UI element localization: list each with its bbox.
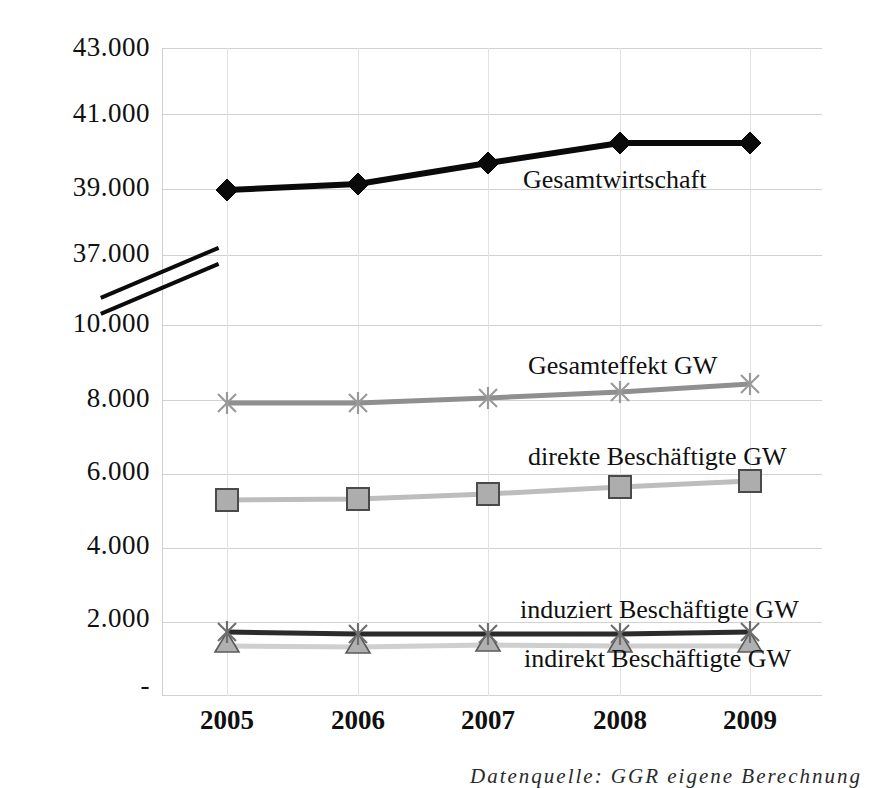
marker-square <box>609 476 631 498</box>
marker-diamond <box>739 132 761 154</box>
marker-square <box>216 489 238 511</box>
x-tick-label-2008: 2008 <box>560 706 680 734</box>
marker-square <box>347 488 369 510</box>
series-label-direkte: direkte Beschäftigte GW <box>528 443 786 471</box>
x-tick-label-2005: 2005 <box>167 706 287 734</box>
series-label-gesamteffekt: Gesamteffekt GW <box>528 352 717 380</box>
series-direkte-beschaeftigte-gw <box>216 470 761 511</box>
series-induziert-beschaeftigte-gw <box>218 621 759 645</box>
series-label-indirekt: indirekt Beschäftigte GW <box>524 645 791 673</box>
marker-square <box>739 470 761 492</box>
marker-square <box>477 483 499 505</box>
marker-diamond <box>216 179 238 201</box>
marker-diamond <box>477 152 499 174</box>
series-label-gesamtwirtschaft: Gesamtwirtschaft <box>523 166 706 194</box>
x-tick-label-2006: 2006 <box>298 706 418 734</box>
source-note: Datenquelle: GGR eigene Berechnung <box>470 764 862 788</box>
x-tick-label-2009: 2009 <box>690 706 810 734</box>
marker-diamond <box>609 132 631 154</box>
series-label-induziert: induziert Beschäftigte GW <box>520 596 799 624</box>
marker-diamond <box>347 173 369 195</box>
x-tick-label-2007: 2007 <box>428 706 548 734</box>
